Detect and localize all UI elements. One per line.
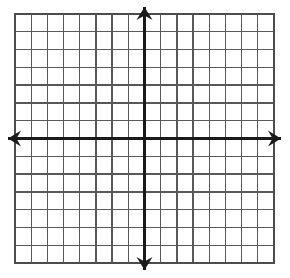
figure-canvas	[0, 0, 290, 278]
coordinate-grid	[0, 0, 290, 278]
